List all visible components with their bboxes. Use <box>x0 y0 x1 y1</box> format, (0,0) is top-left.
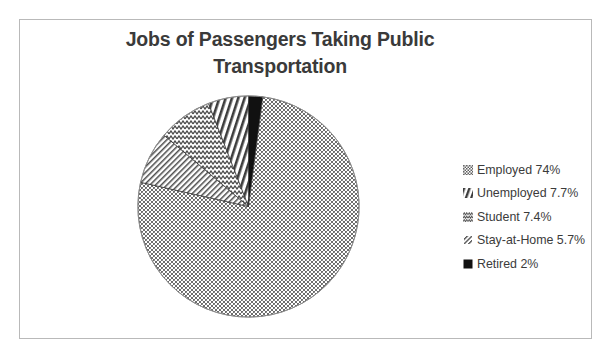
legend-item-retired[interactable]: Retired 2% <box>463 252 603 276</box>
chart-title: Jobs of Passengers Taking Public Transpo… <box>70 26 490 79</box>
pie-slices <box>138 96 359 317</box>
wave-swatch-icon <box>463 188 473 198</box>
legend-label-employed: Employed 74% <box>477 164 560 176</box>
chart-legend: Employed 74% Unemployed 7.7% Student 7.4… <box>463 158 603 276</box>
legend-item-employed[interactable]: Employed 74% <box>463 158 603 182</box>
legend-item-stay-at-home[interactable]: Stay-at-Home 5.7% <box>463 229 603 253</box>
chart-title-line-1: Jobs of Passengers Taking Public <box>70 26 490 53</box>
chart-page: Jobs of Passengers Taking Public Transpo… <box>0 0 614 362</box>
fine-diagonal-swatch-icon <box>463 212 473 222</box>
legend-label-stay-at-home: Stay-at-Home 5.7% <box>477 234 585 246</box>
bold-diagonal-swatch-icon <box>463 235 473 245</box>
legend-label-student: Student 7.4% <box>477 211 551 223</box>
legend-item-student[interactable]: Student 7.4% <box>463 205 603 229</box>
solid-black-swatch-icon <box>463 259 473 269</box>
pie-chart-svg <box>137 95 360 318</box>
legend-label-retired: Retired 2% <box>477 258 538 270</box>
pie-chart <box>137 95 360 318</box>
legend-item-unemployed[interactable]: Unemployed 7.7% <box>463 182 603 206</box>
legend-label-unemployed: Unemployed 7.7% <box>477 187 578 199</box>
chart-title-line-2: Transportation <box>70 53 490 80</box>
stipple-swatch-icon <box>463 165 473 175</box>
